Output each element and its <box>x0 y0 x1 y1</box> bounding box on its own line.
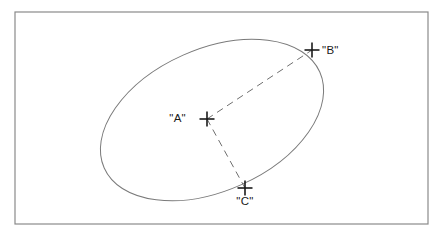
dashed-line-a-to-b <box>207 50 312 119</box>
point-marker-a <box>200 112 215 127</box>
diagram-svg: "A" "B" "C" <box>0 0 443 237</box>
point-label-a: "A" <box>169 112 186 124</box>
dashed-line-a-to-c <box>207 119 245 188</box>
point-label-b: "B" <box>322 44 339 56</box>
point-label-c: "C" <box>236 195 253 207</box>
ellipse-shape <box>75 7 348 233</box>
point-marker-c <box>238 181 253 196</box>
geometry-diagram-canvas: "A" "B" "C" <box>0 0 443 237</box>
